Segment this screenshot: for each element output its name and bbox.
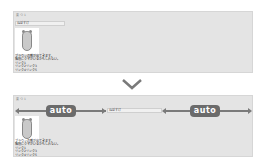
text-input[interactable]: ねぼすけ	[15, 21, 65, 26]
arrow-right-icon	[248, 108, 252, 114]
margin-left-auto-badge: auto	[46, 105, 76, 117]
margin-right-auto-badge: auto	[190, 105, 220, 117]
after-panel: 要 つ 1 auto ねぼすけ auto ブラウンの熊が出てきます。 階段にクマ…	[13, 95, 253, 157]
body-text: ブラウンの熊が出てきます。 階段にクマがいるかもしれない。 リンク1 リンク2リ…	[15, 55, 60, 72]
bear-image	[15, 28, 39, 54]
chevron-down-icon	[120, 77, 144, 91]
before-panel: 要 つ 1 ねぼすけ ブラウンの熊が出てきます。 階段にクマがいるかもしれない。…	[13, 11, 253, 73]
arrow-right-icon	[102, 108, 106, 114]
panel-label: 要 つ 1	[16, 97, 26, 101]
panel-label: 要 つ 1	[16, 13, 26, 17]
body-text: ブラウンの熊が出てきます。 階段にクマがいるかもしれない。 リンク1 リンク2リ…	[15, 140, 60, 157]
text-input[interactable]: ねぼすけ	[107, 108, 162, 113]
link-3[interactable]: リンク4リンク5	[15, 69, 60, 72]
link-3[interactable]: リンク4リンク5	[15, 154, 60, 157]
